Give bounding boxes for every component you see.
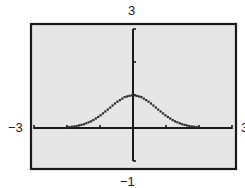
curve-pixel — [121, 98, 123, 100]
curve-pixel — [97, 116, 99, 118]
curve-pixel — [188, 125, 190, 127]
ymax-label: 3 — [128, 4, 135, 17]
curve-pixel — [179, 122, 181, 124]
graph-screen — [0, 0, 245, 188]
curve-pixel — [167, 116, 169, 118]
curve-pixel — [76, 125, 78, 127]
curve-pixel — [88, 121, 90, 123]
curve-pixel — [184, 124, 186, 126]
curve-pixel — [162, 112, 164, 114]
ymin-label: −1 — [120, 175, 135, 188]
curve-pixel — [138, 95, 140, 97]
curve-pixel — [114, 102, 116, 104]
curve-pixel — [172, 119, 174, 121]
curve-pixel — [186, 124, 188, 126]
curve-pixel — [136, 95, 138, 97]
curve-pixel — [133, 94, 135, 96]
curve-pixel — [104, 110, 106, 112]
curve-pixel — [152, 104, 154, 106]
curve-pixel — [73, 125, 75, 127]
curve-pixel — [90, 120, 92, 122]
curve-pixel — [116, 101, 118, 103]
curve-pixel — [169, 117, 171, 119]
curve-pixel — [196, 126, 198, 128]
curve-pixel — [145, 99, 147, 101]
curve-pixel — [83, 123, 85, 125]
curve-pixel — [68, 126, 70, 128]
curve-pixel — [181, 123, 183, 125]
curve-pixel — [128, 95, 130, 97]
curve-pixel — [119, 99, 121, 101]
xmin-label: −3 — [8, 121, 23, 134]
curve-pixel — [92, 119, 94, 121]
curve-pixel — [155, 106, 157, 108]
curve-pixel — [85, 122, 87, 124]
curve-pixel — [140, 96, 142, 98]
curve-pixel — [80, 124, 82, 126]
curve-pixel — [112, 104, 114, 106]
curve-pixel — [71, 126, 73, 128]
curve-pixel — [107, 108, 109, 110]
curve-pixel — [100, 114, 102, 116]
curve-pixel — [102, 112, 104, 114]
curve-pixel — [164, 114, 166, 116]
curve-pixel — [131, 94, 133, 96]
curve-pixel — [160, 110, 162, 112]
curve-pixel — [78, 124, 80, 126]
curve-pixel — [174, 120, 176, 122]
curve-pixel — [143, 98, 145, 100]
curve-pixel — [95, 117, 97, 119]
curve-pixel — [66, 126, 68, 128]
curve-pixel — [126, 95, 128, 97]
curve-pixel — [148, 101, 150, 103]
curve-pixel — [191, 125, 193, 127]
curve-pixel — [176, 121, 178, 123]
curve-pixel — [124, 96, 126, 98]
curve-pixel — [150, 102, 152, 104]
curve-pixel — [157, 108, 159, 110]
curve-pixel — [109, 106, 111, 108]
curve-pixel — [193, 126, 195, 128]
xmax-label: 3 — [241, 121, 245, 134]
